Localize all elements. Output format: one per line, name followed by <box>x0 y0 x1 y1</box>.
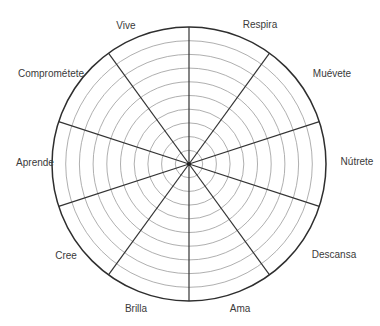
label-descansa: Descansa <box>312 250 356 260</box>
spoke-6 <box>108 164 189 275</box>
spoke-9 <box>108 53 189 164</box>
center-hub <box>187 162 191 166</box>
spoke-1 <box>189 53 270 164</box>
label-aprende: Aprende <box>16 158 54 168</box>
label-respira: Respira <box>243 20 277 30</box>
label-nutrete: Nútrete <box>341 157 374 167</box>
label-muevete: Muévete <box>313 69 351 79</box>
label-vive: Vive <box>116 21 135 31</box>
wheel-diagram <box>0 0 380 326</box>
spoke-4 <box>189 164 270 275</box>
label-brilla: Brilla <box>125 304 147 314</box>
label-ama: Ama <box>230 304 251 314</box>
label-cree: Cree <box>55 251 77 261</box>
label-comprometete: Comprométete <box>18 69 84 79</box>
